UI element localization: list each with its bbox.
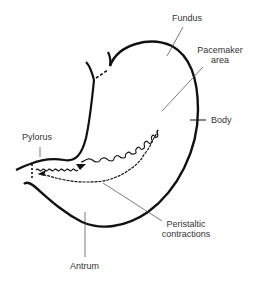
cardiac-sphincter-dashes (96, 70, 108, 78)
propulsion-wavy-arrow (36, 169, 78, 171)
label-pacemaker-line2: area (196, 55, 244, 65)
lesser-curvature (16, 80, 94, 170)
stomach-diagram (0, 0, 259, 284)
label-pacemaker-line1: Pacemaker (196, 45, 244, 55)
label-peristaltic-line2: contractions (156, 229, 216, 239)
label-pylorus: Pylorus (22, 132, 52, 142)
peristaltic-wave-coil (81, 130, 158, 162)
peristaltic-leader (103, 183, 162, 221)
propulsion-arrowhead-right (76, 164, 86, 170)
label-antrum: Antrum (70, 261, 99, 271)
peristaltic-wave-band (38, 130, 158, 182)
label-peristaltic-line1: Peristaltic (156, 219, 216, 229)
label-fundus: Fundus (172, 13, 202, 23)
label-pacemaker-area: Pacemaker area (196, 45, 244, 65)
esophagus-left-wall (86, 62, 94, 80)
label-body: Body (211, 115, 232, 125)
label-peristaltic-contractions: Peristaltic contractions (156, 219, 216, 239)
